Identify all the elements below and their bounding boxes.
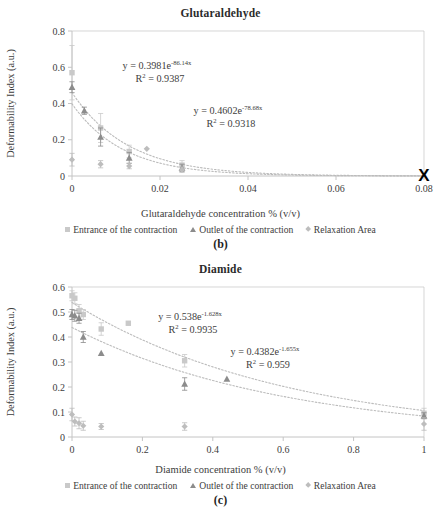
y-axis-tick-label: 0.2 [53,134,66,145]
y-axis-tick-label: 0.4 [53,98,66,109]
legend-label-entrance: Entrance of the contraction [73,224,177,235]
scatter-plot-glutaraldehyde: 00.20.40.60.800.020.040.060.08Deformabil… [0,19,441,209]
x-axis-tick-label: 1 [422,444,427,455]
x-axis-title-diamide: Diamide concentration % (v/v) [0,464,441,475]
figure-panel-b: Glutaraldehyde 00.20.40.60.800.020.040.0… [0,0,441,255]
data-point-diamond [69,157,75,163]
legend-label-relaxation: Relaxation Area [314,224,376,235]
r-squared-annotation-2: R2 = 0.9318 [207,117,256,129]
y-axis-tick-label: 0.3 [53,357,66,368]
diamond-marker-icon [305,226,311,232]
data-series-3 [69,408,427,430]
trendline-curve-2 [72,327,424,416]
square-marker-icon [65,227,70,232]
chart-title-diamide: Diamide [0,255,441,275]
triangle-marker-icon [190,483,196,488]
data-point-diamond [182,423,188,429]
equation-annotation-2: y = 0.4382e-1.655x [231,345,301,357]
y-axis-tick-label: 0.1 [53,407,66,418]
panel-caption-b: (b) [0,237,441,252]
bold-x-marker: X [418,166,430,185]
y-axis-tick-label: 0.2 [53,382,66,393]
data-point-square [182,358,187,363]
x-axis-tick-label: 0.6 [277,444,290,455]
legend-label-relaxation: Relaxation Area [314,480,376,491]
data-point-triangle [69,84,76,90]
x-axis-tick-label: 0 [70,183,75,194]
legend-item-relaxation: Relaxation Area [306,224,375,235]
x-axis-title-glutaraldehyde: Glutaraldehyde concentration % (v/v) [0,208,441,219]
y-axis-tick-label: 0.4 [53,332,66,343]
x-axis-tick-label: 0.8 [347,444,360,455]
data-point-triangle [98,350,105,356]
legend-label-outlet: Outlet of the contraction [199,224,293,235]
data-point-diamond [421,421,427,427]
y-axis-title: Deformability Index (a.u.) [5,49,17,158]
r-squared-annotation-1: R2 = 0.9387 [136,72,185,84]
data-point-diamond [126,163,132,169]
x-axis-tick-label: 0 [70,444,75,455]
data-point-square [72,296,77,301]
r-squared-annotation-2: R2 = 0.959 [246,358,290,370]
legend-label-entrance: Entrance of the contraction [73,480,177,491]
data-point-triangle [181,381,188,387]
plot-area-diamide: 00.10.20.30.40.50.600.20.40.60.81Deforma… [0,275,441,465]
equation-annotation-1: y = 0.538e-1.628x [158,310,222,322]
data-point-square [99,326,104,331]
legend-item-outlet: Outlet of the contraction [190,224,293,235]
x-axis-tick-label: 0.4 [207,444,220,455]
data-point-triangle [81,107,88,113]
equation-annotation-1: y = 0.3981e-86.14x [123,59,193,71]
x-axis-tick-label: 0.2 [136,444,149,455]
legend-glutaraldehyde: Entrance of the contraction Outlet of th… [0,224,441,235]
legend-item-entrance: Entrance of the contraction [65,480,177,491]
y-axis-tick-label: 0.8 [53,26,66,37]
triangle-marker-icon [190,227,196,232]
r-squared-annotation-1: R2 = 0.9935 [169,323,218,335]
y-axis-tick-label: 0.5 [53,307,66,318]
trendline-curve-1 [72,104,424,176]
data-point-square [81,312,86,317]
legend-item-outlet: Outlet of the contraction [190,480,293,491]
figure-panel-c: Diamide 00.10.20.30.40.50.600.20.40.60.8… [0,255,441,519]
data-point-square [69,70,74,75]
diamond-marker-icon [305,482,311,488]
data-point-diamond [98,161,104,167]
legend-item-entrance: Entrance of the contraction [65,224,177,235]
square-marker-icon [65,483,70,488]
y-axis-tick-label: 0.6 [53,282,66,293]
x-axis-tick-label: 0.04 [239,183,257,194]
data-point-triangle [223,376,230,382]
data-point-diamond [144,146,150,152]
legend-label-outlet: Outlet of the contraction [199,480,293,491]
y-axis-tick-label: 0 [60,432,65,443]
chart-title-glutaraldehyde: Glutaraldehyde [0,0,441,19]
legend-diamide: Entrance of the contraction Outlet of th… [0,480,441,491]
y-axis-tick-label: 0.6 [53,62,66,73]
scatter-plot-diamide: 00.10.20.30.40.50.600.20.40.60.81Deforma… [0,275,441,465]
x-axis-tick-label: 0.02 [151,183,169,194]
x-axis-tick-label: 0.06 [327,183,345,194]
equation-annotation-2: y = 0.4602e-78.68x [194,104,264,116]
y-axis-title: Deformability Index (a.u.) [5,308,17,417]
y-axis-tick-label: 0 [60,171,65,182]
panel-caption-c: (c) [0,493,441,508]
plot-area-glutaraldehyde: 00.20.40.60.800.020.040.060.08Deformabil… [0,19,441,209]
legend-item-relaxation: Relaxation Area [306,480,375,491]
data-point-square [126,321,131,326]
data-point-diamond [98,423,104,429]
